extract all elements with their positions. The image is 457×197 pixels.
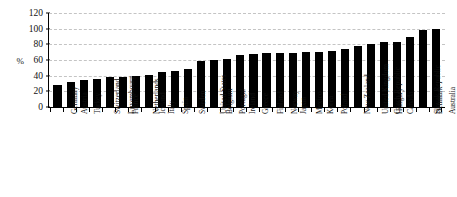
- x-axis-label-slot: United Kingdom: [350, 114, 363, 194]
- x-axis-label-slot: Germany: [50, 114, 63, 194]
- x-axis-category-label: New Zealand: [364, 74, 372, 114]
- x-axis-tick-slot: [416, 108, 429, 113]
- x-axis-category-label: Poland: [341, 93, 349, 114]
- x-axis-label-slot: France: [115, 114, 128, 194]
- x-axis-label-slot: Netherlands: [128, 114, 141, 194]
- x-axis-label-slot: Ireland: [233, 114, 246, 194]
- y-axis-tick-label: 40: [34, 71, 44, 80]
- bar-slot: [299, 13, 312, 107]
- x-axis-label-slot: Slovak Republic: [403, 114, 416, 194]
- x-axis-label-slot: Turkey: [76, 114, 89, 194]
- bar-slot: [51, 13, 64, 107]
- x-axis-label-slot: Australia: [429, 114, 442, 194]
- x-axis-label-slot: Italy: [155, 114, 168, 194]
- x-axis-label-slot: Portugal: [220, 114, 233, 194]
- x-axis-category-label: Greece: [263, 93, 271, 114]
- bar-slot: [182, 13, 195, 107]
- x-axis-category-label: Korea: [327, 96, 335, 114]
- x-axis-label-slot: Hungary: [377, 114, 390, 194]
- x-axis-label-slot: Poland: [324, 114, 337, 194]
- x-axis-label-slot: Korea: [311, 114, 324, 194]
- x-axis-category-label: Iceland: [159, 92, 167, 114]
- x-axis-tick-mark: [429, 108, 430, 112]
- x-axis-category-label: Japan: [300, 97, 308, 114]
- x-axis-tick-slot: [50, 108, 63, 113]
- y-axis-tick-label: 20: [34, 87, 44, 96]
- x-axis-label-slot: Greece: [246, 114, 259, 194]
- x-axis-category-label: Mexico: [316, 91, 324, 114]
- bar[interactable]: [210, 60, 218, 107]
- y-axis-tick-labels: 020406080100120: [24, 8, 46, 110]
- x-axis-tick-mark: [194, 108, 195, 112]
- bar-slot: [417, 13, 430, 107]
- x-axis-label-slot: New Zealand: [337, 114, 350, 194]
- x-axis-label-slot: United States: [194, 114, 207, 194]
- x-axis-tick-mark: [337, 108, 338, 112]
- x-axis-category-label: Turkey: [93, 93, 101, 114]
- x-axis-tick-slot: [350, 108, 363, 113]
- x-axis-category-label: Sweden: [199, 91, 207, 114]
- x-axis-category-label: Hungary: [396, 88, 404, 114]
- x-axis-label-slot: Czech Republic: [364, 114, 377, 194]
- y-axis-tick-label: 100: [29, 24, 43, 33]
- x-axis-tick-mark: [50, 108, 51, 112]
- x-axis-category-label: Canada: [407, 92, 415, 114]
- x-axis-category-label: Portugal: [239, 89, 247, 114]
- y-axis-tick-label: 120: [29, 9, 43, 18]
- y-axis-unit-label: %: [8, 56, 24, 66]
- x-axis-tick-mark: [350, 108, 351, 112]
- bar[interactable]: [53, 85, 61, 107]
- x-axis-label-slot: Canada: [390, 114, 403, 194]
- bar-slot: [169, 13, 182, 107]
- x-axis-tick-mark: [272, 108, 273, 112]
- x-axis-label-slot: Denmark: [416, 114, 429, 194]
- bar-slot: [325, 13, 338, 107]
- x-axis-category-label: Germany: [70, 87, 78, 115]
- x-axis-label-slot: Japan: [285, 114, 298, 194]
- x-axis-label-slot: Belgium: [207, 114, 220, 194]
- x-axis-label-slot: Sweden: [181, 114, 194, 194]
- x-axis-category-label: Switzerland: [113, 79, 121, 114]
- x-axis-category-label: Denmark: [436, 87, 444, 115]
- x-axis-label-slot: Luxembourg: [102, 114, 115, 194]
- x-axis-category-label: Australia: [449, 87, 457, 114]
- x-axis-tick-mark: [259, 108, 260, 112]
- x-axis-tick-mark: [102, 108, 103, 112]
- x-axis-label-slot: Spain: [168, 114, 181, 194]
- y-axis-tick-label: 60: [34, 56, 44, 65]
- bar[interactable]: [419, 30, 427, 107]
- x-axis-category-label: Ireland: [250, 93, 258, 114]
- x-axis-category-label: Norway: [291, 90, 299, 114]
- bar[interactable]: [354, 46, 362, 107]
- x-axis-tick-mark: [416, 108, 417, 112]
- x-axis-category-labels: GermanyAustriaTurkeySwitzerlandLuxembour…: [48, 114, 444, 194]
- x-axis-category-label: France: [132, 94, 140, 114]
- y-axis-tick-label: 80: [34, 40, 44, 49]
- x-axis-category-label: Austria: [80, 92, 88, 114]
- x-axis-tick-mark: [207, 108, 208, 112]
- x-axis-tick-mark: [63, 108, 64, 112]
- x-axis-category-label: Spain: [183, 97, 191, 114]
- y-axis-tick-label: 0: [38, 103, 43, 112]
- x-axis-tick-mark: [377, 108, 378, 112]
- x-axis-category-label: United Kingdom: [382, 64, 390, 114]
- x-axis-category-label: Italy: [168, 100, 176, 114]
- x-axis-category-label: Belgium: [226, 89, 234, 114]
- x-axis-tick-mark: [89, 108, 90, 112]
- x-axis-label-slot: Mexico: [298, 114, 311, 194]
- x-axis-category-label: Finland: [277, 91, 285, 114]
- x-axis-label-slot: Iceland: [141, 114, 154, 194]
- x-axis-label-slot: Switzerland: [89, 114, 102, 194]
- x-axis-tick-mark: [311, 108, 312, 112]
- x-axis-label-slot: Austria: [63, 114, 76, 194]
- x-axis-label-slot: Norway: [272, 114, 285, 194]
- x-axis-label-slot: Finland: [259, 114, 272, 194]
- x-axis-tick-mark: [141, 108, 142, 112]
